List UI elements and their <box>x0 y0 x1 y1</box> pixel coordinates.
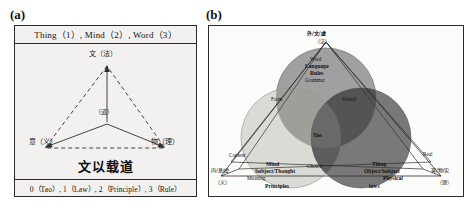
label-tao: Tao <box>313 132 322 138</box>
panel-a-letter: (a) <box>10 8 25 21</box>
panel-a-triangle-diagram: Thing（1）, Mind（2）, Word（3） 文（法） 意（义） 物（理… <box>14 25 197 197</box>
label-thing: Thing <box>372 161 386 167</box>
panel-a-header-row: Thing（1）, Mind（2）, Word（3） <box>15 26 196 44</box>
panel-b-venn-diagram: 外/文/虚 （法） Word Language Rules Grammar Fo… <box>208 25 464 197</box>
label-language: Language <box>305 63 329 69</box>
label-real: Real <box>423 151 433 157</box>
label-subject-thought: Subject/Thought <box>255 168 295 174</box>
label-laws: laws <box>369 183 380 189</box>
label-mind: Mind <box>266 161 279 167</box>
panel-a-motto: 文以载道 <box>15 156 196 175</box>
panel-a-footer-row: 0（Tao）, 1（Law）, 2（Principle）, 3（Rule） <box>15 179 196 196</box>
panel-a-body: 文（法） 意（义） 物（理） （道） 文以载道 <box>15 44 196 181</box>
node-label-wu: 物（理） <box>151 138 179 146</box>
label-object-subject: Object/Subject <box>364 168 400 174</box>
figure-root: (a) (b) Thing（1）, Mind（2）, Word（3） 文（法） … <box>0 0 472 209</box>
label-content: Content <box>229 152 245 158</box>
label-virtual: Virtual <box>342 96 356 102</box>
label-principles: Principles <box>265 183 289 189</box>
panel-b-letter: (b) <box>206 8 222 21</box>
label-physical: Physical <box>383 175 403 181</box>
label-rules: Rules <box>310 70 323 76</box>
label-word: Word <box>310 56 321 62</box>
label-grammar: Grammar <box>305 77 325 83</box>
left-corner-label-cn-sub: （义） <box>215 179 230 185</box>
panel-a-header-text: Thing（1）, Mind（2）, Word（3） <box>34 28 176 41</box>
node-label-yi: 意（义） <box>29 138 57 146</box>
label-choice: Choice <box>307 163 322 169</box>
label-meaning: Meaning <box>247 175 265 181</box>
node-label-tao: （道） <box>95 108 113 116</box>
apex-label-cn: 外/文/虚 <box>307 30 326 36</box>
panel-a-footer-text: 0（Tao）, 1（Law）, 2（Principle）, 3（Rule） <box>30 183 182 194</box>
venn-graphic <box>209 26 463 196</box>
left-corner-label-cn: 内/意/虚 <box>211 167 229 173</box>
right-corner-label-cn: 客/物/实 <box>431 167 449 173</box>
apex-label-cn-sub: （法） <box>315 38 330 44</box>
node-label-wen: 文（法） <box>89 50 117 58</box>
label-form: Form <box>271 96 282 102</box>
right-corner-label-cn-sub: （理） <box>437 179 452 185</box>
